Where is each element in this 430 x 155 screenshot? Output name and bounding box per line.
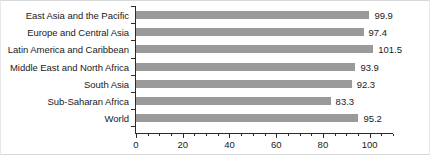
x-axis-minor-tick — [393, 134, 394, 136]
bar-row: South Asia92.3 — [1, 76, 430, 93]
x-axis-minor-tick — [358, 134, 359, 136]
x-axis-minor-tick — [300, 134, 301, 136]
bar-value-label: 92.3 — [357, 76, 376, 93]
y-axis-tick — [131, 6, 136, 7]
x-axis-minor-tick — [171, 134, 172, 136]
bar — [136, 97, 331, 105]
x-axis-minor-tick — [159, 134, 160, 136]
category-label: Sub-Saharan Africa — [1, 93, 129, 110]
x-axis-minor-tick — [265, 134, 266, 136]
x-axis-minor-tick — [218, 134, 219, 136]
y-axis-tick — [131, 40, 136, 41]
x-axis-major-tick — [136, 134, 137, 138]
bar-value-label: 93.9 — [360, 59, 379, 76]
category-label: Middle East and North Africa — [1, 59, 129, 76]
x-axis-minor-tick — [148, 134, 149, 136]
x-axis-minor-tick — [335, 134, 336, 136]
y-axis-tick — [131, 92, 136, 93]
x-axis-major-tick — [229, 134, 230, 138]
x-axis-major-tick — [276, 134, 277, 138]
x-axis-minor-tick — [346, 134, 347, 136]
x-axis-tick-label: 80 — [318, 139, 329, 151]
bar-value-label: 101.5 — [378, 41, 402, 58]
plot-area: East Asia and the Pacific99.9Europe and … — [1, 1, 429, 154]
x-axis-tick-label: 20 — [177, 139, 188, 151]
x-axis-minor-tick — [288, 134, 289, 136]
x-axis-minor-tick — [311, 134, 312, 136]
bar-row: Sub-Saharan Africa83.3 — [1, 93, 430, 110]
x-axis-tick-label: 40 — [224, 139, 235, 151]
x-axis-tick-label: 0 — [133, 139, 138, 151]
category-label: World — [1, 110, 129, 127]
bar-value-label: 95.2 — [363, 110, 382, 127]
bar — [136, 45, 373, 53]
x-axis-tick-label: 100 — [362, 139, 378, 151]
bar-value-label: 99.9 — [374, 7, 393, 24]
x-axis-minor-tick — [206, 134, 207, 136]
y-axis-tick — [131, 126, 136, 127]
x-axis-major-tick — [323, 134, 324, 138]
bar — [136, 63, 355, 71]
y-axis-tick — [131, 23, 136, 24]
bar-value-label: 83.3 — [336, 93, 355, 110]
bar-row: Europe and Central Asia97.4 — [1, 24, 430, 41]
bar — [136, 11, 369, 19]
y-axis-tick — [131, 75, 136, 76]
bar — [136, 80, 352, 88]
bar — [136, 28, 364, 36]
y-axis-tick — [131, 58, 136, 59]
x-axis-major-tick — [370, 134, 371, 138]
bar — [136, 114, 358, 122]
x-axis-minor-tick — [194, 134, 195, 136]
bar-row: East Asia and the Pacific99.9 — [1, 7, 430, 24]
category-label: Europe and Central Asia — [1, 24, 129, 41]
category-label: East Asia and the Pacific — [1, 7, 129, 24]
bar-value-label: 97.4 — [369, 24, 388, 41]
bar-row: Middle East and North Africa93.9 — [1, 59, 430, 76]
category-label: South Asia — [1, 76, 129, 93]
bar-chart-figure: East Asia and the Pacific99.9Europe and … — [0, 0, 430, 155]
x-axis-minor-tick — [253, 134, 254, 136]
bar-row: Latin America and Caribbean101.5 — [1, 41, 430, 58]
x-axis-tick-label: 60 — [271, 139, 282, 151]
category-label: Latin America and Caribbean — [1, 41, 129, 58]
x-axis-minor-tick — [381, 134, 382, 136]
x-axis-major-tick — [183, 134, 184, 138]
x-axis-minor-tick — [241, 134, 242, 136]
bar-row: World95.2 — [1, 110, 430, 127]
y-axis-tick — [131, 109, 136, 110]
